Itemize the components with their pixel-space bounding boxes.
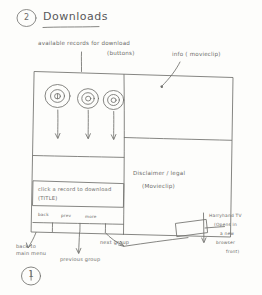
arrow-button-3-head xyxy=(111,135,116,140)
sketch-canvas: 2 Downloads available records for downlo… xyxy=(0,0,262,295)
nav-row-divider xyxy=(33,223,124,225)
record-button-3-inner xyxy=(111,98,116,103)
record-button-2-mid xyxy=(82,93,94,105)
logo-box xyxy=(176,219,208,236)
annotation-disclaimer-sub: (Movieclip) xyxy=(142,183,175,190)
nav-more-label[interactable]: more xyxy=(85,214,97,219)
nav-prev-label[interactable]: prev xyxy=(61,213,71,218)
nav-back-label[interactable]: back xyxy=(38,212,49,217)
annotation-tv-line2: (Opens in xyxy=(214,222,237,228)
leader-next-group-tail xyxy=(124,238,188,247)
record-button-2-inner xyxy=(86,96,91,101)
annotation-back-to-main-sub: main menu xyxy=(16,250,46,256)
wireframe-right-divider xyxy=(124,138,231,141)
leader-prev-group xyxy=(79,233,80,253)
record-button-2-outer xyxy=(78,89,99,109)
annotation-tv-line5: front) xyxy=(226,249,239,255)
annotation-tv-title: Harryhand TV xyxy=(209,213,242,219)
annotation-tv-line3: a new xyxy=(220,231,234,237)
record-button-3-mid xyxy=(108,95,120,106)
annotation-previous-group: previous group xyxy=(60,256,100,262)
wireframe-left-divider xyxy=(33,156,124,158)
wireframe-column-divider xyxy=(124,75,125,235)
callout-click-record[interactable]: click a record to download xyxy=(38,186,111,193)
title-underline xyxy=(43,27,99,28)
step-number-bottom: 1 xyxy=(26,270,37,279)
step-number-top: 2 xyxy=(21,13,32,22)
annotation-available-records-sub: (buttons) xyxy=(107,50,135,57)
leader-prev-group-head xyxy=(76,248,81,253)
record-button-1-outer xyxy=(45,85,70,108)
annotation-info: info ( movieclip) xyxy=(172,51,221,58)
leader-tv-head xyxy=(202,238,206,243)
arrow-button-1-head xyxy=(55,133,60,138)
annotation-next-group: next group xyxy=(100,239,129,245)
callout-click-record-sub: (TITLE) xyxy=(38,195,57,202)
annotation-available-records: available records for download xyxy=(38,40,130,47)
leader-info xyxy=(162,62,181,87)
annotation-tv-line4: browser xyxy=(216,240,235,246)
annotation-disclaimer: Disclaimer / legal xyxy=(133,170,185,177)
page-title: Downloads xyxy=(43,10,108,24)
record-button-1-inner xyxy=(55,94,61,99)
annotation-back-to-main: back to xyxy=(16,243,36,249)
record-button-1-mid xyxy=(51,90,65,103)
arrow-button-2-head xyxy=(86,134,91,139)
record-button-3-outer xyxy=(103,91,123,110)
